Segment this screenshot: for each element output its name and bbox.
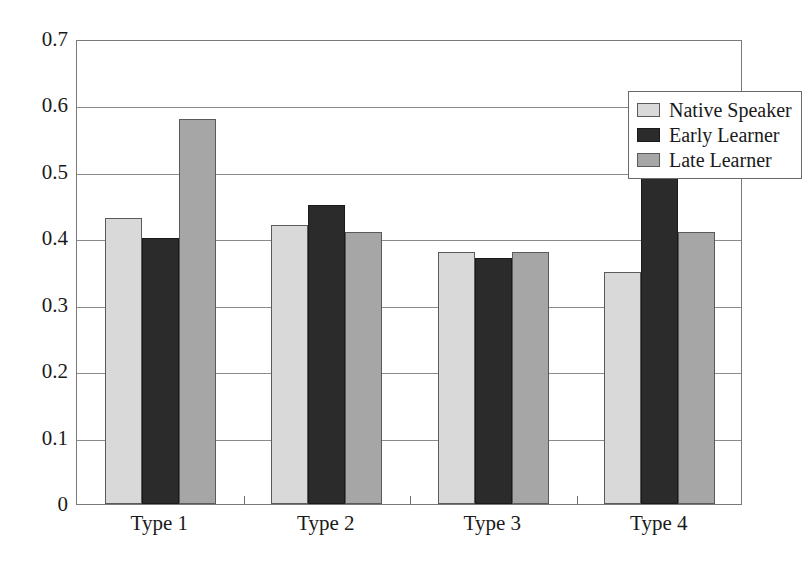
y-axis-tick-label: 0 [6,494,68,515]
bar-group [271,41,382,504]
y-axis-tick-label: 0.7 [6,29,68,50]
bar [438,252,475,504]
bar [604,272,641,505]
bar [678,232,715,504]
bar [345,232,382,504]
legend-swatch-icon [637,103,660,117]
y-axis-tick-label: 0.5 [6,162,68,183]
legend-item: Late Learner [637,147,792,172]
y-axis-tick-label: 0.4 [6,228,68,249]
bar [142,238,179,504]
legend: Native SpeakerEarly LearnerLate Learner [628,91,802,179]
bar [179,119,216,504]
bar [271,225,308,504]
bar-group [438,41,549,504]
legend-item-label: Early Learner [669,124,779,146]
y-axis-tick-label: 0.1 [6,428,68,449]
x-axis-category-label: Type 1 [76,510,243,536]
x-axis: Type 1Type 2Type 3Type 4 [76,510,742,544]
x-axis-category-label: Type 4 [576,510,743,536]
y-axis-tick-label: 0.3 [6,295,68,316]
legend-item-label: Late Learner [669,149,772,171]
plot-area: Native SpeakerEarly LearnerLate Learner [76,40,742,505]
bar-group [105,41,216,504]
x-axis-category-label: Type 2 [243,510,410,536]
bar [512,252,549,504]
x-axis-category-label: Type 3 [409,510,576,536]
bar [105,218,142,504]
bar [308,205,345,504]
legend-item: Native Speaker [637,97,792,122]
bar [475,258,512,504]
bar [641,165,678,504]
legend-item-label: Native Speaker [669,99,792,121]
y-axis: 0.70.60.50.40.30.20.10 [0,40,68,505]
y-axis-tick-label: 0.2 [6,361,68,382]
legend-swatch-icon [637,128,660,142]
y-axis-tick-label: 0.6 [6,95,68,116]
legend-swatch-icon [637,153,660,167]
legend-item: Early Learner [637,122,792,147]
